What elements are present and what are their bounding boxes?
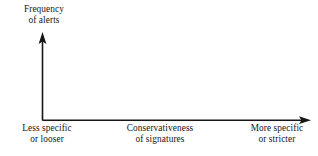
x-axis-label-center-line-2: of signatures: [110, 134, 210, 145]
y-axis-label-line-1: Frequency: [0, 4, 88, 15]
y-axis-label-line-2: of alerts: [0, 15, 88, 26]
x-axis-label-right-line-1: More specific: [233, 123, 318, 134]
x-axis-label-right: More specific or stricter: [233, 123, 318, 145]
y-axis-label: Frequency of alerts: [0, 4, 88, 26]
x-axis-label-right-line-2: or stricter: [233, 134, 318, 145]
x-axis-label-center: Conservativeness of signatures: [110, 123, 210, 145]
x-axis-label-center-line-1: Conservativeness: [110, 123, 210, 134]
x-axis-label-left: Less specific or looser: [3, 123, 91, 145]
axis-diagram-figure: Frequency of alerts Less specific or loo…: [0, 0, 318, 156]
x-axis-label-left-line-1: Less specific: [3, 123, 91, 134]
x-axis-label-left-line-2: or looser: [3, 134, 91, 145]
